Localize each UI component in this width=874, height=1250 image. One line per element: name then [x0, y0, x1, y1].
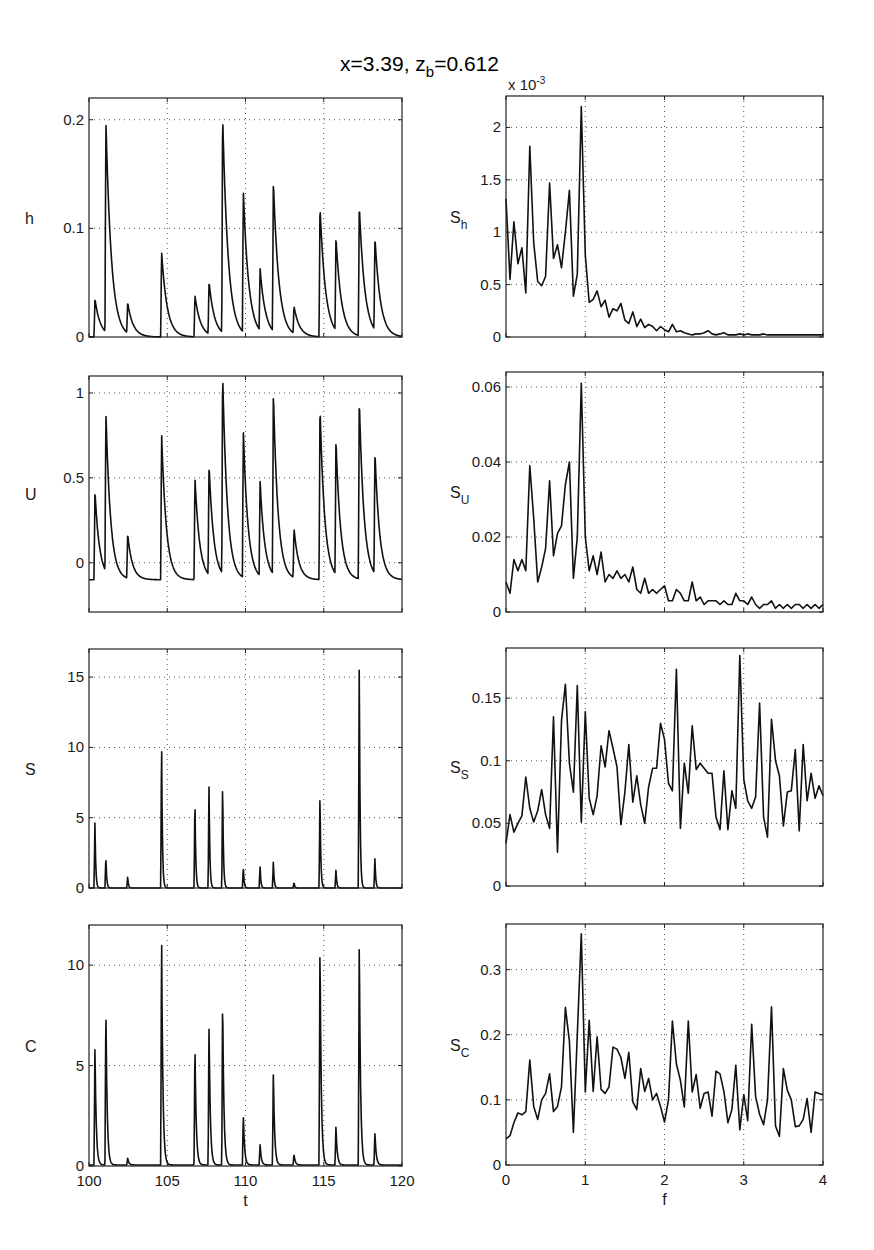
data-trace-Sh: [506, 107, 823, 335]
x-tick-label: 2: [660, 1171, 668, 1188]
y-tick-label: 1: [493, 223, 501, 240]
panel-SS: 00.050.10.15SS: [450, 648, 823, 894]
data-trace-h: [89, 125, 402, 337]
y-tick-label: 0.1: [480, 1091, 501, 1108]
y-axis-label: SU: [450, 484, 469, 507]
x-tick-label: 110: [234, 1172, 258, 1189]
y-tick-label: 15: [67, 668, 84, 685]
x-tick-label: 0: [502, 1171, 510, 1188]
y-tick-label: 0.02: [472, 528, 501, 545]
panel-SC: 00.10.20.301234SCf: [450, 924, 827, 1208]
y-tick-label: 2: [493, 118, 501, 135]
y-tick-label: 0.5: [480, 276, 501, 293]
figure-title: x=3.39, zb=0.612: [340, 52, 499, 80]
y-tick-label: 0: [493, 328, 501, 345]
exponent-label: x 10-3: [508, 75, 546, 93]
y-axis-label: SS: [450, 759, 469, 782]
y-tick-label: 5: [76, 1057, 84, 1074]
y-tick-label: 10: [67, 738, 84, 755]
y-tick-label: 0.5: [63, 469, 84, 486]
y-tick-label: 0: [493, 1156, 501, 1173]
x-axis-label: t: [243, 1192, 248, 1209]
y-tick-label: 0: [493, 877, 501, 894]
figure: x=3.39, zb=0.612 00.10.2h00.511.52Shx 10…: [0, 0, 874, 1250]
y-tick-label: 0.06: [472, 378, 501, 395]
panel-C: 0510100105110115120Ct: [25, 925, 415, 1209]
x-tick-label: 4: [819, 1171, 827, 1188]
y-tick-label: 0.04: [472, 453, 501, 470]
y-tick-label: 0: [76, 879, 84, 896]
y-tick-label: 0.2: [480, 1026, 501, 1043]
panel-SU: 00.020.040.06SU: [450, 372, 823, 620]
x-tick-label: 3: [740, 1171, 748, 1188]
y-tick-label: 1.5: [480, 171, 501, 188]
panel-U: 00.51U: [25, 376, 402, 612]
x-tick-label: 100: [76, 1172, 101, 1189]
y-axis-label: U: [25, 486, 37, 503]
y-tick-label: 1: [76, 384, 84, 401]
y-tick-label: 0.2: [63, 111, 84, 128]
y-axis-label: S: [25, 761, 36, 778]
y-tick-label: 0.1: [63, 219, 84, 236]
y-axis-label: Sh: [450, 209, 467, 232]
x-tick-label: 1: [581, 1171, 589, 1188]
y-tick-label: 0: [493, 603, 501, 620]
x-axis-label: f: [662, 1191, 667, 1208]
y-tick-label: 0.05: [472, 814, 501, 831]
y-axis-label: C: [25, 1038, 37, 1055]
y-axis-label: h: [25, 210, 34, 227]
y-tick-label: 0.1: [480, 752, 501, 769]
panel-S: 051015S: [25, 649, 402, 896]
y-tick-label: 0: [76, 554, 84, 571]
y-axis-label: SC: [450, 1037, 470, 1060]
y-tick-label: 0.3: [480, 961, 501, 978]
x-tick-label: 115: [312, 1172, 336, 1189]
y-tick-label: 0: [76, 328, 84, 345]
y-tick-label: 0.15: [472, 689, 501, 706]
data-trace-U: [89, 384, 402, 580]
panel-Sh: 00.511.52Shx 10-3: [450, 75, 823, 345]
panel-h: 00.10.2h: [25, 98, 402, 345]
x-tick-label: 120: [389, 1172, 414, 1189]
x-tick-label: 105: [155, 1172, 180, 1189]
y-tick-label: 10: [67, 956, 84, 973]
y-tick-label: 5: [76, 809, 84, 826]
